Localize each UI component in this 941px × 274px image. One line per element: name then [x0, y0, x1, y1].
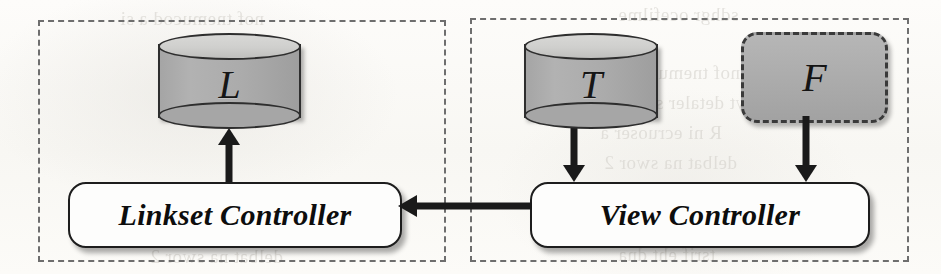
linkset-controller-box[interactable]: Linkset Controller — [68, 182, 402, 248]
diagram-canvas: sdhgr ocefilme nof tnemucod a si sebyt d… — [0, 0, 941, 274]
datastore-T-label: T — [524, 33, 658, 129]
arrow-head-left — [398, 195, 417, 217]
edge-view-to-linkset — [398, 193, 532, 219]
node-F-label: F — [802, 54, 826, 101]
arrow-shaft — [412, 203, 532, 210]
view-controller-box[interactable]: View Controller — [530, 182, 870, 248]
arrow-shaft — [803, 116, 810, 172]
datastore-L[interactable]: L — [158, 33, 301, 129]
view-controller-label: View Controller — [600, 198, 800, 232]
edge-linkset-to-L — [214, 128, 244, 182]
edge-F-to-view — [791, 116, 821, 182]
linkset-controller-label: Linkset Controller — [119, 198, 352, 232]
datastore-L-label: L — [158, 33, 301, 129]
arrow-head-down — [563, 165, 585, 182]
edge-T-to-view — [559, 128, 589, 182]
node-F[interactable]: F — [741, 32, 888, 123]
arrow-head-down — [795, 165, 817, 182]
arrow-head-up — [218, 128, 240, 145]
datastore-T[interactable]: T — [524, 33, 658, 129]
